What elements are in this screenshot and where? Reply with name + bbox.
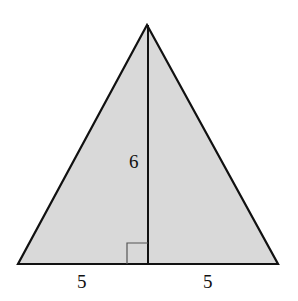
triangle-diagram: 6 5 5 <box>0 0 298 301</box>
right-base-label: 5 <box>203 271 213 292</box>
height-label: 6 <box>129 151 139 172</box>
left-base-label: 5 <box>77 271 87 292</box>
